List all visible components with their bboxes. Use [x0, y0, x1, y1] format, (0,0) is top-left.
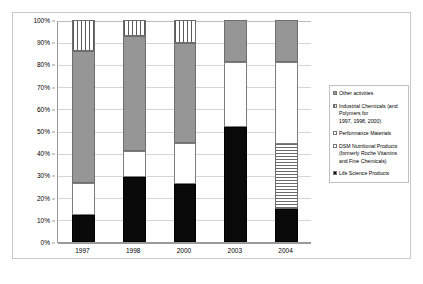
plot-area	[57, 21, 311, 243]
chart-legend: Other activitiesIndustrial Chemicals (an…	[329, 85, 409, 183]
chart-frame: 0%10%20%30%40%50%60%70%80%90%100% 199719…	[12, 12, 411, 259]
legend-item[interactable]: Performance Materials	[333, 130, 405, 138]
bar-segment[interactable]	[224, 127, 247, 242]
bar-segment[interactable]	[72, 183, 95, 215]
legend-item[interactable]: Life Science Products	[333, 170, 405, 178]
y-axis-tick-mark	[52, 132, 55, 133]
bar-segment[interactable]	[123, 177, 146, 242]
x-axis-tick-label: 1997	[57, 248, 108, 255]
y-axis-tick-mark	[52, 109, 55, 110]
y-axis-tick-label: 80%	[37, 62, 50, 69]
bar-column	[261, 21, 312, 242]
bar-segment[interactable]	[123, 36, 146, 151]
bar-segment[interactable]	[275, 20, 298, 62]
y-axis-tick-label: 10%	[37, 218, 50, 225]
y-axis-tick-label: 50%	[37, 129, 50, 136]
y-axis-tick-label: 0%	[41, 240, 50, 247]
y-axis-tick-mark	[52, 176, 55, 177]
x-axis: 19971998200020032004	[57, 245, 311, 261]
y-axis-tick-label: 100%	[33, 18, 50, 25]
x-axis-tick-label: 2000	[159, 248, 210, 255]
y-axis-tick-mark	[52, 21, 55, 22]
legend-item-label: DSM Nutritional Products (formerly Roche…	[339, 143, 397, 166]
bar-segment[interactable]	[224, 62, 247, 126]
bar-segment[interactable]	[224, 20, 247, 62]
y-axis-tick-label: 60%	[37, 107, 50, 114]
y-axis-tick-mark	[52, 220, 55, 221]
x-axis-tick-label: 1998	[108, 248, 159, 255]
legend-item-label: Industrial Chemicals (and Polymers for 1…	[339, 103, 398, 126]
bar-column	[160, 21, 211, 242]
legend-item[interactable]: Other activities	[333, 90, 405, 98]
bar-segment[interactable]	[174, 43, 197, 143]
bar-segment[interactable]	[174, 184, 197, 242]
legend-swatch-icon	[333, 131, 337, 135]
y-axis-tick-label: 30%	[37, 173, 50, 180]
legend-item-label: Other activities	[339, 90, 373, 98]
legend-swatch-icon	[333, 171, 337, 175]
bar-segment[interactable]	[275, 209, 298, 242]
y-axis-tick-label: 20%	[37, 195, 50, 202]
bar-segment[interactable]	[174, 143, 197, 184]
legend-swatch-icon	[333, 91, 337, 95]
bar-segment[interactable]	[275, 62, 298, 144]
legend-swatch-icon	[333, 104, 337, 108]
bar-segment[interactable]	[174, 20, 197, 43]
legend-item[interactable]: DSM Nutritional Products (formerly Roche…	[333, 143, 405, 166]
legend-swatch-icon	[333, 144, 337, 148]
bar-segment[interactable]	[123, 20, 146, 36]
y-axis-tick-mark	[52, 243, 55, 244]
y-axis-tick-label: 40%	[37, 151, 50, 158]
plot-inner	[58, 21, 311, 242]
bar-column	[109, 21, 160, 242]
legend-item-label: Life Science Products	[339, 170, 389, 178]
bar-segment[interactable]	[123, 151, 146, 177]
legend-item-label: Performance Materials	[339, 130, 391, 138]
legend-item[interactable]: Industrial Chemicals (and Polymers for 1…	[333, 103, 405, 126]
bar-column	[210, 21, 261, 242]
bar-segment[interactable]	[275, 144, 298, 208]
y-axis-tick-label: 90%	[37, 40, 50, 47]
bar-segment[interactable]	[72, 20, 95, 51]
bar-column	[58, 21, 109, 242]
y-axis-tick-mark	[52, 198, 55, 199]
y-axis-tick-mark	[52, 154, 55, 155]
y-axis: 0%10%20%30%40%50%60%70%80%90%100%	[13, 21, 55, 243]
gridline	[58, 243, 311, 244]
y-axis-tick-mark	[52, 65, 55, 66]
y-axis-tick-mark	[52, 43, 55, 44]
x-axis-tick-label: 2003	[209, 248, 260, 255]
x-axis-tick-label: 2004	[260, 248, 311, 255]
bar-segment[interactable]	[72, 51, 95, 183]
y-axis-tick-mark	[52, 87, 55, 88]
bar-segment[interactable]	[72, 215, 95, 242]
y-axis-tick-label: 70%	[37, 84, 50, 91]
